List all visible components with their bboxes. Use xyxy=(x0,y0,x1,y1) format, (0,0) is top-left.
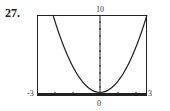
x-min-label: -3 xyxy=(27,89,34,98)
plot-frame xyxy=(38,16,147,96)
y-max-label: 10 xyxy=(96,5,104,14)
x-center-label: 0 xyxy=(97,99,101,108)
graph xyxy=(0,0,170,111)
x-max-label: 3 xyxy=(148,89,152,98)
